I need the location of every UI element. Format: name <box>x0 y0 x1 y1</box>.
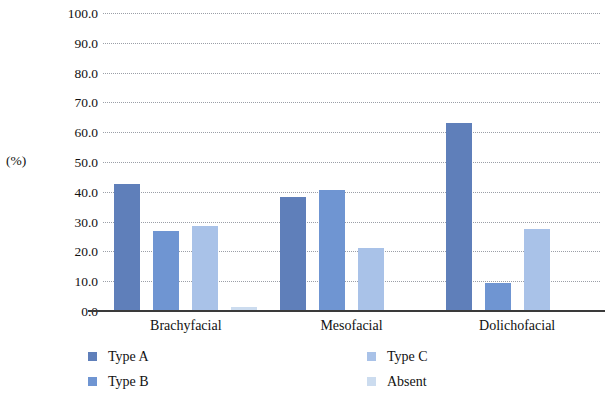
y-axis-tick-label: 40.0 <box>6 186 98 200</box>
y-axis-tick-label: 100.0 <box>6 7 98 21</box>
y-axis-tick-label: 60.0 <box>6 126 98 140</box>
legend-label: Absent <box>387 375 427 389</box>
y-axis-tick-label: 70.0 <box>6 96 98 110</box>
x-axis-category-labels: BrachyfacialMesofacialDolichofacial <box>103 316 600 340</box>
x-axis-category-label: Mesofacial <box>320 316 382 336</box>
y-axis-tick-labels: 0.010.020.030.040.050.060.070.080.090.01… <box>0 0 98 399</box>
bar <box>153 231 179 311</box>
legend-item[interactable]: Type B <box>88 369 303 394</box>
bar <box>192 226 218 311</box>
legend-swatch-icon <box>367 352 376 361</box>
y-axis-tick-label: 20.0 <box>6 245 98 259</box>
bar-chart: 0.010.020.030.040.050.060.070.080.090.01… <box>0 0 615 399</box>
legend-label: Type C <box>387 350 428 364</box>
bars-layer <box>103 13 600 311</box>
x-axis-line <box>88 310 605 312</box>
bar <box>319 190 345 311</box>
bar <box>114 184 140 311</box>
y-axis-tick-label: 10.0 <box>6 275 98 289</box>
chart-legend: Type AType CType BAbsent <box>88 344 568 394</box>
bar <box>280 197 306 311</box>
bar <box>358 248 384 311</box>
legend-item[interactable]: Type C <box>367 344 582 369</box>
legend-swatch-icon <box>367 377 376 386</box>
bar <box>485 283 511 311</box>
y-axis-tick-label: 0.0 <box>6 305 98 319</box>
legend-item[interactable]: Type A <box>88 344 303 369</box>
legend-item[interactable]: Absent <box>367 369 582 394</box>
legend-swatch-icon <box>88 352 97 361</box>
y-axis-tick-label: 80.0 <box>6 67 98 81</box>
x-axis-category-label: Dolichofacial <box>479 316 555 336</box>
x-axis-category-label: Brachyfacial <box>150 316 222 336</box>
legend-swatch-icon <box>88 377 97 386</box>
bar <box>524 229 550 311</box>
bar <box>446 123 472 311</box>
y-axis-tick-label: 90.0 <box>6 37 98 51</box>
y-axis-tick-label: 30.0 <box>6 216 98 230</box>
plot-area <box>103 13 600 311</box>
legend-label: Type B <box>108 375 149 389</box>
y-axis-title: (%) <box>6 154 26 168</box>
legend-label: Type A <box>108 350 149 364</box>
